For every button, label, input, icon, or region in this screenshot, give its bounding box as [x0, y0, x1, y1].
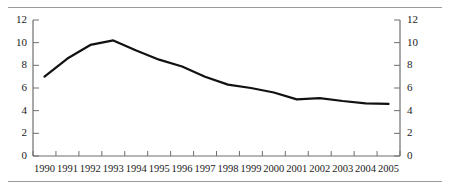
- y-axis-tick-label-right-0: 0: [407, 150, 429, 161]
- line-chart-svg: [0, 0, 450, 189]
- y-axis-tick-label-left-12: 12: [5, 14, 27, 25]
- data-series-line: [44, 40, 388, 103]
- y-axis-tick-label-left-10: 10: [5, 37, 27, 48]
- y-axis-tick-label-left-4: 4: [5, 105, 27, 116]
- plot-area: 024681012 024681012 19901991199219931994…: [0, 0, 450, 189]
- y-axis-tick-label-right-2: 2: [407, 127, 429, 138]
- tick-marks-group: [33, 20, 400, 156]
- y-axis-tick-label-left-6: 6: [5, 82, 27, 93]
- y-axis-tick-label-left-0: 0: [5, 150, 27, 161]
- y-axis-tick-label-right-12: 12: [407, 14, 429, 25]
- y-axis-tick-label-right-8: 8: [407, 59, 429, 70]
- x-axis-tick-label-2005: 2005: [374, 163, 404, 174]
- chart-figure: 024681012 024681012 19901991199219931994…: [0, 0, 450, 189]
- y-axis-tick-label-right-6: 6: [407, 82, 429, 93]
- axes-group: [33, 20, 400, 156]
- y-axis-tick-label-right-10: 10: [407, 37, 429, 48]
- y-axis-tick-label-left-8: 8: [5, 59, 27, 70]
- y-axis-tick-label-left-2: 2: [5, 127, 27, 138]
- y-axis-tick-label-right-4: 4: [407, 105, 429, 116]
